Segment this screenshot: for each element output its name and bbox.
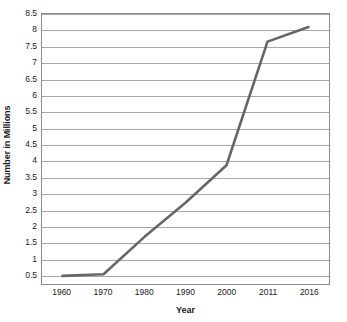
y-axis-tick-label: 2 [32, 222, 37, 231]
y-axis-tick-label: 8.5 [25, 9, 37, 18]
y-axis-tick-label: 5 [32, 123, 37, 132]
y-axis-tick-label: 8 [32, 25, 37, 34]
y-axis-tick-labels: 8.587.576.565.554.543.532.521.510.5 [14, 0, 40, 290]
x-axis-title: Year [41, 305, 330, 315]
y-axis-tick-label: 1 [32, 255, 37, 264]
y-axis-tick-label: 2.5 [25, 205, 37, 214]
y-axis-tick-label: 3.5 [25, 173, 37, 182]
y-axis-tick-label: 0.5 [25, 271, 37, 280]
y-axis-title: Number in Millions [0, 0, 14, 290]
y-axis-tick-label: 7.5 [25, 42, 37, 51]
x-axis-tick-label: 2000 [217, 288, 236, 297]
series-polyline [62, 27, 308, 276]
plot-area [41, 13, 330, 285]
x-axis-tick-label: 1980 [135, 288, 154, 297]
y-axis-tick-label: 5.5 [25, 107, 37, 116]
x-axis-tick-label: 1990 [176, 288, 195, 297]
y-axis-tick-label: 6 [32, 91, 37, 100]
x-axis-tick-label: 2016 [300, 288, 319, 297]
y-axis-tick-label: 7 [32, 58, 37, 67]
y-axis-tick-label: 1.5 [25, 238, 37, 247]
y-axis-title-label: Number in Millions [2, 106, 12, 185]
data-series-line [42, 14, 329, 284]
line-chart: Number in Millions 8.587.576.565.554.543… [0, 0, 347, 322]
x-axis-tick-label: 2011 [259, 288, 277, 297]
y-axis-tick-label: 3 [32, 189, 37, 198]
y-axis-tick-label: 6.5 [25, 74, 37, 83]
x-axis-tick-labels: 1960197019801990200020112016 [41, 288, 330, 302]
x-axis-tick-label: 1970 [93, 288, 112, 297]
x-axis-tick-label: 1960 [52, 288, 71, 297]
y-axis-tick-label: 4 [32, 156, 37, 165]
y-axis-tick-label: 4.5 [25, 140, 37, 149]
